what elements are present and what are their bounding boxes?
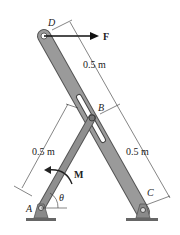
point-d-label: D	[47, 17, 56, 28]
point-a-label: A	[25, 203, 33, 214]
support-c	[126, 204, 158, 221]
dimension-db: 0.5 m	[83, 59, 106, 70]
dimension-bc: 0.5 m	[126, 146, 149, 157]
moment-label: M	[74, 169, 84, 180]
dimension-ab: 0.5 m	[32, 146, 55, 157]
pin-b	[89, 115, 95, 121]
member-ab	[41, 115, 95, 208]
force-label: F	[103, 31, 109, 42]
point-c-label: C	[147, 187, 154, 198]
mechanism-diagram: F 0.5 m 0.5 m 0.5 m M θ D B C A	[0, 0, 180, 235]
angle-label: θ	[59, 192, 64, 203]
point-b-label: B	[98, 102, 104, 113]
